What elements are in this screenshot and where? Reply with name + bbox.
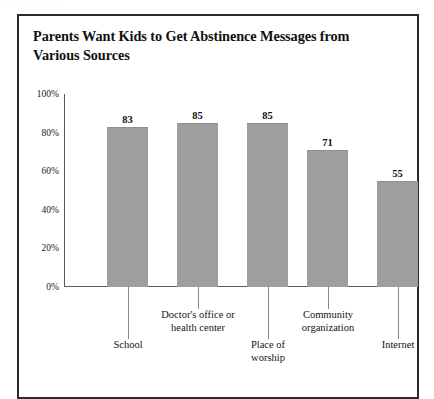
leader-line-5 bbox=[398, 287, 399, 339]
plot-area: 100%80%60%40%20%0% 8385857155 bbox=[64, 94, 402, 287]
category-label-5: Internet bbox=[343, 338, 434, 351]
chart-title: Parents Want Kids to Get Abstinence Mess… bbox=[33, 27, 383, 65]
bar-value-label-5: 55 bbox=[392, 168, 403, 179]
y-axis-tick-80: 80% bbox=[42, 127, 59, 137]
bar-value-label-4: 71 bbox=[322, 137, 333, 148]
leader-line-1 bbox=[128, 287, 129, 339]
bar-4: 71 bbox=[307, 150, 348, 287]
bar-value-label-3: 85 bbox=[262, 110, 273, 121]
bar-value-label-2: 85 bbox=[192, 110, 203, 121]
scan-artifact-text: . . . . . . . . bbox=[0, 0, 60, 6]
chart-figure: Parents Want Kids to Get Abstinence Mess… bbox=[17, 14, 419, 399]
category-label-4: Community organization bbox=[273, 308, 383, 334]
y-axis-line bbox=[64, 94, 65, 287]
bar-1: 83 bbox=[107, 127, 148, 287]
y-axis-tick-20: 20% bbox=[42, 243, 59, 253]
y-axis-tick-60: 60% bbox=[42, 166, 59, 176]
y-axis-tick-100: 100% bbox=[37, 89, 59, 99]
category-label-1: School bbox=[73, 338, 183, 351]
bar-5: 55 bbox=[377, 181, 418, 287]
scan-artifact: . . . . . . . . bbox=[0, 0, 434, 11]
category-label-2: Doctor's office or health center bbox=[143, 308, 253, 334]
category-label-3: Place of worship bbox=[213, 338, 323, 364]
leader-line-4 bbox=[328, 287, 329, 309]
bar-3: 85 bbox=[247, 123, 288, 287]
y-axis-tick-40: 40% bbox=[42, 205, 59, 215]
leader-line-3 bbox=[268, 287, 269, 339]
leader-line-2 bbox=[198, 287, 199, 309]
y-axis-tick-0: 0% bbox=[46, 282, 59, 292]
bar-2: 85 bbox=[177, 123, 218, 287]
bar-value-label-1: 83 bbox=[122, 114, 133, 125]
